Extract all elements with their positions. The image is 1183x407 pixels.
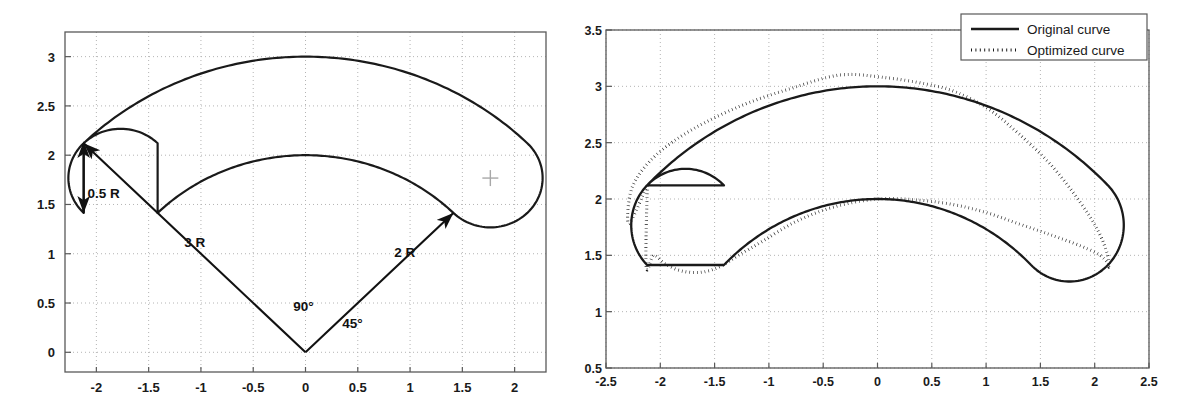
x-tick-label: -1.5 <box>137 380 159 395</box>
x-tick-label: 1 <box>983 375 990 389</box>
left-grid-group <box>65 32 546 372</box>
original-curve-path <box>631 86 1124 281</box>
x-tick-label: 2 <box>511 380 518 395</box>
annotation-label-cap-radius: 0.5 R <box>88 186 121 201</box>
legend-label-2: Optimized curve <box>1027 43 1125 58</box>
right-chart-panel: -2.5-2-1.5-1-0.500.511.522.50.511.522.53… <box>580 0 1183 407</box>
y-tick-label: 1.5 <box>37 197 55 212</box>
left-annotations-group: 3 R2 R0.5 R90°45° <box>84 143 499 352</box>
chart-legend: Original curveOptimized curve <box>961 14 1147 60</box>
y-tick-label: 1 <box>595 306 602 320</box>
x-tick-label: -0.5 <box>242 380 264 395</box>
y-tick-label: 0 <box>48 345 55 360</box>
x-tick-label: -1.5 <box>704 375 726 389</box>
original-curve-path <box>68 57 542 228</box>
x-tick-label: 1 <box>406 380 413 395</box>
figure-root: -2-1.5-1-0.500.511.5200.511.522.53 3 R2 … <box>0 0 1183 407</box>
x-tick-label: -0.5 <box>812 375 834 389</box>
right-tick-labels-group: -2.5-2-1.5-1-0.500.511.522.50.511.522.53… <box>585 24 1158 389</box>
right-chart-svg: -2.5-2-1.5-1-0.500.511.522.50.511.522.53… <box>580 0 1183 407</box>
y-tick-label: 3.5 <box>585 24 602 38</box>
y-tick-label: 2 <box>48 148 55 163</box>
y-tick-label: 2 <box>595 193 602 207</box>
x-tick-label: 1.5 <box>1032 375 1049 389</box>
x-tick-label: -1 <box>195 380 207 395</box>
x-tick-label: -2 <box>91 380 103 395</box>
legend-label-1: Original curve <box>1027 22 1110 37</box>
x-tick-label: -2 <box>655 375 666 389</box>
y-tick-label: 3 <box>48 50 55 65</box>
annotation-arrow-radius-2 <box>306 213 454 352</box>
left-curve-group <box>68 57 542 228</box>
annotation-label-angle-45: 45° <box>342 316 362 331</box>
y-tick-label: 2.5 <box>37 99 55 114</box>
y-tick-label: 0.5 <box>37 296 55 311</box>
x-tick-label: 0.5 <box>923 375 940 389</box>
right-curve-group <box>628 74 1124 281</box>
left-ticks-group <box>65 57 515 372</box>
x-tick-label: -1 <box>763 375 774 389</box>
y-tick-label: 2.5 <box>585 137 602 151</box>
annotation-label-angle-90: 90° <box>293 299 313 314</box>
annotation-label-radius-2: 2 R <box>394 245 415 260</box>
left-tick-labels-group: -2-1.5-1-0.500.511.5200.511.522.53 <box>37 50 518 395</box>
y-tick-label: 1.5 <box>585 249 602 263</box>
x-tick-label: 2 <box>1091 375 1098 389</box>
annotation-label-radius-3: 3 R <box>184 235 205 250</box>
left-chart-svg: -2-1.5-1-0.500.511.5200.511.522.53 3 R2 … <box>0 0 580 407</box>
left-chart-panel: -2-1.5-1-0.500.511.5200.511.522.53 3 R2 … <box>0 0 580 407</box>
x-tick-label: 1.5 <box>453 380 471 395</box>
x-tick-label: 0.5 <box>349 380 367 395</box>
y-tick-label: 0.5 <box>585 362 602 376</box>
optimized-curve-path <box>628 74 1110 272</box>
x-tick-label: 0 <box>302 380 309 395</box>
x-tick-label: 2.5 <box>1140 375 1157 389</box>
y-tick-label: 3 <box>595 80 602 94</box>
x-tick-label: -2.5 <box>595 375 617 389</box>
x-tick-label: 0 <box>874 375 881 389</box>
y-tick-label: 1 <box>48 247 55 262</box>
